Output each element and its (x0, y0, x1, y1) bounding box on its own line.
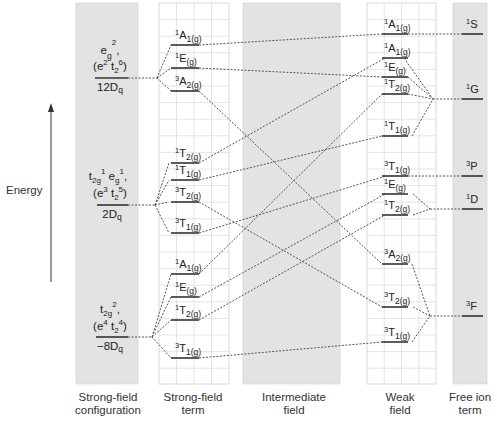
intermediate-field-column (243, 3, 340, 384)
correlation-diagram: Energy eg2, (e2 t26) 12Dq t2g1 eg1, (e3 … (0, 0, 497, 424)
energy-axis: Energy (6, 103, 54, 282)
svg-text:configuration: configuration (75, 404, 141, 416)
column-labels: Strong-field configuration Strong-field … (75, 391, 491, 416)
label-weak-field: Weak (385, 391, 414, 403)
energy-axis-label: Energy (6, 184, 43, 196)
label-intermediate-field: Intermediate (262, 391, 326, 403)
label-strong-field-term: Strong-field (164, 391, 223, 403)
svg-text:term: term (459, 404, 482, 416)
label-strong-field-configuration: Strong-field (79, 391, 138, 403)
svg-text:field: field (283, 404, 304, 416)
svg-text:field: field (389, 404, 410, 416)
arrow-up-icon (48, 103, 54, 112)
svg-text:term: term (182, 404, 205, 416)
label-free-ion-term: Free ion (449, 391, 491, 403)
